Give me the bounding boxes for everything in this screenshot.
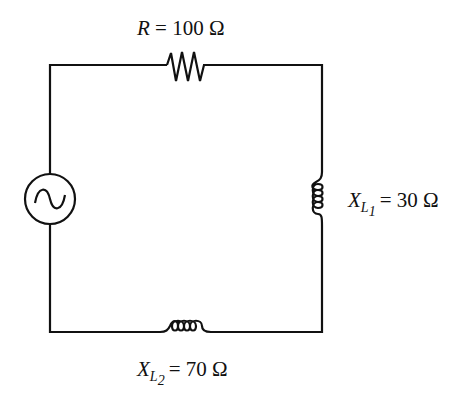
resistor-label: R = 100 Ω: [136, 16, 225, 40]
wire-top-right: [208, 65, 322, 172]
inductor-1-label: XL1= 30 Ω: [347, 188, 439, 219]
wire-bottom-left: [50, 224, 160, 332]
wire-top-left: [50, 65, 167, 174]
circuit-diagram: R = 100 Ω XL1= 30 Ω XL2= 70 Ω: [0, 0, 474, 405]
wire-bottom-right: [211, 226, 322, 332]
sine-wave-icon: [35, 190, 65, 209]
inductor-2-label: XL2= 70 Ω: [136, 357, 228, 388]
inductor-2-symbol: [160, 321, 211, 332]
circuit-wires: [50, 65, 322, 332]
resistor-symbol: [167, 52, 208, 81]
inductor-1-symbol: [312, 172, 322, 226]
ac-source-symbol: [25, 174, 75, 224]
